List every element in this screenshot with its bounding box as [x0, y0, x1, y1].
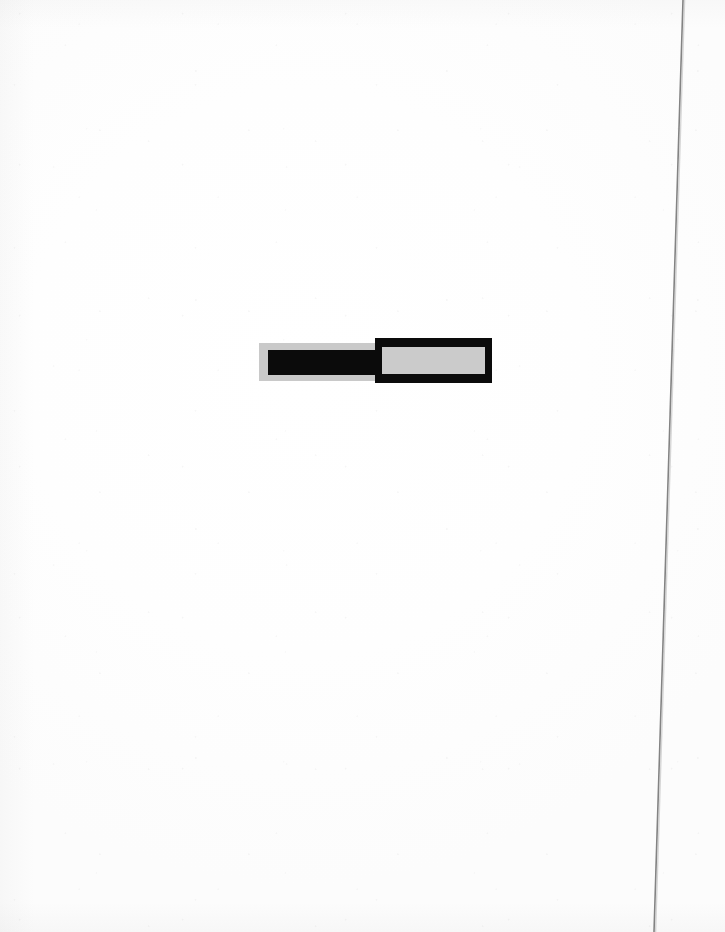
left-panel-light-field: [259, 343, 375, 381]
bicolor-bar-composition: [259, 338, 492, 383]
right-inner-light-bar: [382, 347, 485, 374]
scanned-page: [0, 0, 725, 932]
left-inner-dark-bar: [268, 350, 375, 375]
right-panel-dark-field: [375, 338, 492, 383]
paper-surface: [0, 0, 725, 932]
